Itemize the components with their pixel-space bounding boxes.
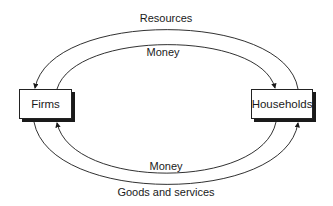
firms-label: Firms [31,98,60,110]
firms-node: Firms [19,89,72,119]
money-bottom-label: Money [149,160,182,172]
households-label: Households [252,98,313,110]
money-top-label: Money [146,46,179,58]
goods-arrow [34,122,298,184]
goods-label: Goods and services [117,186,214,198]
households-node: Households [251,89,313,119]
resources-label: Resources [140,12,193,24]
resources-arrow [35,30,298,89]
